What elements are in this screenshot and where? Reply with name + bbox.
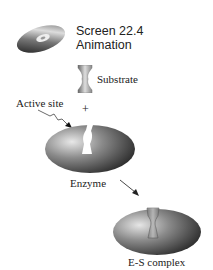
substrate-shape-icon — [76, 65, 94, 93]
enzyme-label: Enzyme — [70, 177, 106, 189]
cd-disc-icon[interactable] — [14, 24, 68, 54]
screen-number-label: Screen 22.4 — [76, 24, 143, 38]
reaction-arrow-icon — [118, 178, 142, 198]
es-complex-label: E-S complex — [128, 256, 185, 268]
animation-link[interactable]: Animation — [76, 38, 132, 52]
enzyme-shape — [44, 122, 136, 174]
es-complex-shape — [112, 206, 202, 256]
substrate-label: Substrate — [97, 73, 138, 85]
plus-sign: + — [82, 102, 89, 117]
